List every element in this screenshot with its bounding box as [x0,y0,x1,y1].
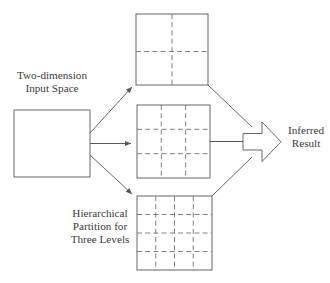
partition-level-1-node [136,14,208,85]
hierarchical-partition-label: Hierarchical Partition for Three Levels [62,207,138,247]
partition-level-2-node [137,105,210,178]
edge-level-3-to-result [212,157,252,196]
input-space-label-line2: Input Space [12,82,92,95]
hierarchical-label-line2: Partition for [62,220,138,233]
edge-level-1-to-result [208,85,252,127]
edge-input-to-level-3 [90,155,132,194]
partition-level-3-node [137,196,212,270]
inferred-result-label: Inferred Result [283,124,329,150]
two-dimension-input-space-node [14,110,90,177]
edge-input-to-level-1 [90,87,132,133]
inferred-label-line2: Result [283,137,329,150]
partition-level-2-border [137,105,210,178]
hierarchical-label-line1: Hierarchical [62,207,138,220]
hierarchical-label-line3: Three Levels [62,233,138,246]
hierarchical-partition-diagram: Two-dimension Input Space Hierarchical P… [0,0,330,283]
inferred-result-block-arrow [243,122,281,162]
inferred-label-line1: Inferred [283,124,329,137]
input-space-square [14,110,90,177]
input-space-label: Two-dimension Input Space [12,69,92,95]
diagram-canvas [0,0,330,283]
input-space-label-line1: Two-dimension [12,69,92,82]
